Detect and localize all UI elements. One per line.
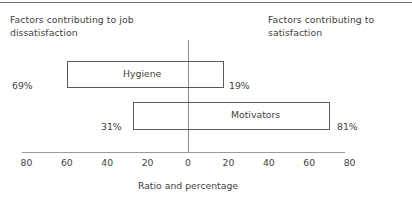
top-frame-rule [0, 2, 412, 3]
bar-value-hygiene-right: 19% [229, 80, 250, 91]
x-tick-label: 80 [338, 157, 362, 168]
caption-satisfaction: Factors contributing to satisfaction [268, 14, 408, 39]
x-tick-label: 60 [55, 157, 79, 168]
herzberg-two-factor-chart: Factors contributing to job dissatisfact… [0, 0, 412, 202]
zero-axis-line [188, 40, 189, 152]
bar-value-hygiene-left: 69% [12, 80, 33, 91]
x-tick-label: 40 [257, 157, 281, 168]
x-axis-title: Ratio and percentage [0, 180, 376, 191]
x-tick-label: 20 [136, 157, 160, 168]
x-tick-label: 80 [14, 157, 38, 168]
x-axis-line [22, 152, 345, 153]
caption-dissatisfaction: Factors contributing to job dissatisfact… [10, 14, 170, 39]
bar-value-motivators-left: 31% [101, 121, 122, 132]
bar-label-hygiene: Hygiene [123, 68, 161, 79]
x-tick-label: 60 [297, 157, 321, 168]
x-tick-label: 0 [176, 157, 200, 168]
x-tick-label: 40 [95, 157, 119, 168]
bar-value-motivators-right: 81% [337, 121, 358, 132]
x-tick-label: 20 [216, 157, 240, 168]
bar-label-motivators: Motivators [231, 109, 280, 120]
